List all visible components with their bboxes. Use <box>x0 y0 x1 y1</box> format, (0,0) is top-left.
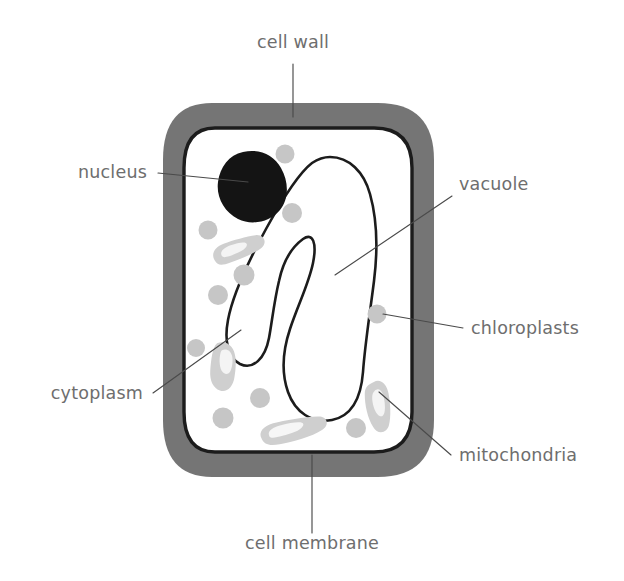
label-cell-membrane: cell membrane <box>245 533 379 553</box>
chloroplast <box>276 145 295 164</box>
chloroplast <box>213 408 234 429</box>
label-mitochondria: mitochondria <box>459 445 577 465</box>
chloroplast <box>346 418 366 438</box>
cell-illustration: cell wall nucleus vacuole chloroplasts m… <box>0 0 624 581</box>
label-cell-wall: cell wall <box>257 32 329 52</box>
label-vacuole: vacuole <box>459 174 529 194</box>
label-nucleus: nucleus <box>78 162 147 182</box>
plant-cell-diagram: cell wall nucleus vacuole chloroplasts m… <box>0 0 624 581</box>
chloroplast <box>187 339 205 357</box>
label-chloroplasts: chloroplasts <box>471 318 579 338</box>
chloroplast <box>234 265 255 286</box>
chloroplast <box>282 203 302 223</box>
chloroplast <box>250 388 270 408</box>
label-cytoplasm: cytoplasm <box>51 383 143 403</box>
chloroplast <box>208 285 228 305</box>
chloroplast <box>199 221 218 240</box>
